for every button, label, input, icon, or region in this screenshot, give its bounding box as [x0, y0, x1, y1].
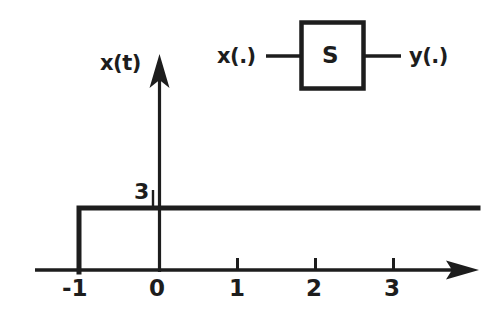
block-diagram-system-label: S: [322, 44, 339, 67]
signal-plot-group: [35, 54, 479, 280]
x-tick-label--1: -1: [62, 277, 88, 300]
x-tick-label-1: 1: [229, 277, 245, 300]
y-axis-label: x(t): [100, 53, 141, 74]
block-diagram-output-label: y(.): [409, 46, 448, 67]
x-tick-label-0: 0: [149, 277, 165, 300]
signal-waveform-step: [79, 208, 478, 272]
figure-canvas: x(t) 3 -1 0 1 2 3 x(.) S y(.): [0, 0, 502, 320]
x-tick-label-3: 3: [384, 277, 400, 300]
block-diagram-input-label: x(.): [217, 46, 256, 67]
x-tick-label-2: 2: [306, 277, 322, 300]
amplitude-label-3: 3: [134, 181, 149, 203]
